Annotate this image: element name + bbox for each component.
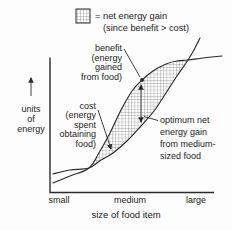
figure-canvas: = net energy gain (since benefit > cost)… (0, 0, 232, 230)
x-tick-large: large (186, 195, 206, 205)
cost-label-line-1: cost (79, 101, 96, 111)
benefit-leader-line (124, 49, 140, 77)
legend-line-2: (since benefit > cost) (103, 23, 189, 33)
legend-line-1: = net energy gain (95, 11, 167, 21)
y-axis-label-line-3: energy (17, 124, 45, 134)
optimum-label-line-3: from medium- (160, 139, 216, 149)
x-tick-medium: medium (114, 195, 146, 205)
benefit-label-line-1: benefit (95, 43, 123, 53)
benefit-label-line-2: (energy (91, 53, 122, 63)
y-axis-label-line-2: of (27, 114, 35, 124)
benefit-label-line-4: from food) (81, 72, 122, 82)
y-axis-label-line-1: units (21, 104, 41, 114)
optimum-label-line-2: energy gain (160, 127, 207, 137)
foraging-energy-figure: = net energy gain (since benefit > cost)… (0, 0, 232, 230)
cost-label-line-4: obtaining (59, 129, 96, 139)
benefit-anchor-dot (140, 78, 144, 82)
cost-label-line-5: food) (75, 139, 96, 149)
benefit-label-line-3: gained (95, 62, 122, 72)
x-tick-small: small (48, 195, 69, 205)
cost-label-line-2: (energy (65, 110, 96, 120)
x-axis-title: size of food item (91, 209, 160, 220)
cost-label-line-3: spent (74, 120, 97, 130)
optimum-label-line-4: sized food (160, 151, 201, 161)
legend-swatch-net-gain (76, 9, 90, 23)
optimum-label-line-1: optimum net (160, 115, 210, 125)
